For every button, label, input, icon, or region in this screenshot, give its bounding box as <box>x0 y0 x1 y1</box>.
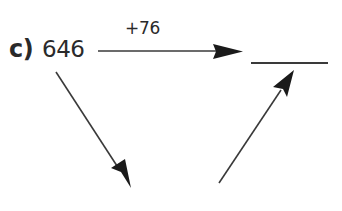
up-arrow <box>219 70 294 183</box>
arrowhead-down-icon <box>111 159 131 188</box>
arrowhead-right-icon <box>213 44 243 59</box>
horizontal-arrow <box>98 44 243 59</box>
worksheet-exercise: c) 646 +76 <box>0 0 342 211</box>
arrows-layer <box>0 0 342 211</box>
arrowhead-up-icon <box>273 70 294 97</box>
down-arrow <box>56 72 131 188</box>
